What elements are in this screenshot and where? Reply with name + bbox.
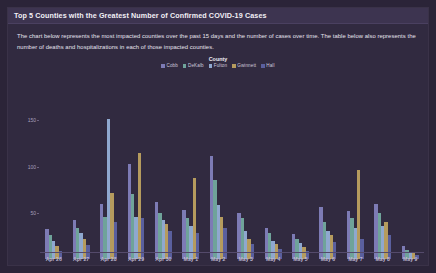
bar-group [95,102,122,259]
x-axis-tick: May 4 [259,253,286,265]
legend-item-label: DeKalb [188,63,204,68]
legend-item-gwinnett[interactable]: Gwinnett [232,63,256,68]
y-axis: 50100150 [8,96,40,265]
legend-item-label: Gwinnett [237,63,256,68]
bar-group [67,102,94,259]
x-axis-tick: May 5 [287,253,314,265]
legend-item-fulton[interactable]: Fulton [209,63,227,68]
legend-item-hall[interactable]: Hall [261,63,274,68]
x-axis-tick: May 2 [205,253,232,265]
plot-bars [40,96,424,265]
x-axis-tick: Apr 28 [95,253,122,265]
legend-swatch-icon [261,64,265,68]
y-axis-tick: 150 [28,117,36,123]
legend-item-cobb[interactable]: Cobb [161,63,177,68]
x-axis-tick: May 1 [177,253,204,265]
legend-item-label: Fulton [214,63,227,68]
legend-title: County [8,56,428,62]
x-axis-tick: Apr 30 [150,253,177,265]
x-axis-tick: Apr 26 [40,253,67,265]
bar-group [396,102,423,259]
chart-legend: County CobbDeKalbFultonGwinnettHall [8,56,428,69]
y-axis-tick: 100 [28,164,36,170]
bar-group [40,102,67,259]
bar-chart: 50100150 Apr 26Apr 27Apr 28Apr 29Apr 30M… [8,96,428,265]
legend-swatch-icon [209,64,213,68]
x-axis-tick: Apr 29 [122,253,149,265]
x-axis: Apr 26Apr 27Apr 28Apr 29Apr 30May 1May 2… [40,252,424,265]
x-axis-tick: May 6 [314,253,341,265]
y-axis-tick: 50 [30,210,36,216]
bar-group [369,102,396,259]
legend-swatch-icon [232,64,236,68]
bar-group [342,102,369,259]
bar-group [177,102,204,259]
x-axis-tick: May 9 [396,253,423,265]
legend-item-label: Cobb [167,63,178,68]
bar-group [314,102,341,259]
card-header: Top 5 Counties with the Greatest Number … [8,8,428,24]
bar-groups [40,102,424,259]
covid-counties-card: Top 5 Counties with the Greatest Number … [8,8,428,265]
card-description: The chart below represents the most impa… [8,24,428,55]
legend-swatch-icon [161,64,165,68]
legend-item-dekalb[interactable]: DeKalb [183,63,204,68]
x-axis-tick: Apr 27 [67,253,94,265]
bar-group [205,102,232,259]
legend-swatch-icon [183,64,187,68]
page-title: Top 5 Counties with the Greatest Number … [14,11,267,20]
bar-group [150,102,177,259]
x-axis-tick: May 7 [342,253,369,265]
legend-item-label: Hall [266,63,274,68]
x-axis-tick: May 8 [369,253,396,265]
bar-group [122,102,149,259]
bar-group [259,102,286,259]
bar-group [287,102,314,259]
x-axis-tick: May 3 [232,253,259,265]
bar-group [232,102,259,259]
legend-items: CobbDeKalbFultonGwinnettHall [8,63,428,68]
